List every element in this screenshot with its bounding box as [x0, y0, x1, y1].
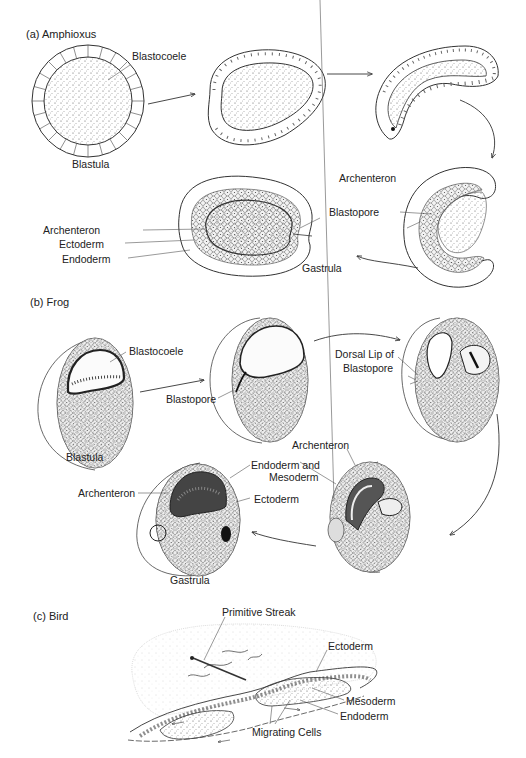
frog-stage-3: [398, 318, 499, 442]
label-dorsal-lip-line1: Dorsal Lip of: [335, 348, 394, 360]
frog-stage-2: [210, 318, 308, 443]
label-blastocoele-a: Blastocoele: [132, 50, 186, 62]
label-blastula-b: Blastula: [66, 451, 103, 463]
label-blastocoele-b: Blastocoele: [129, 345, 183, 357]
label-mesoderm-c: Mesoderm: [346, 695, 396, 707]
label-blastula-a: Blastula: [72, 158, 109, 170]
label-endoderm-mesoderm-line1: Endoderm and: [251, 459, 320, 471]
section-title-frog: (b) Frog: [30, 296, 69, 309]
frog-gastrula: [137, 463, 240, 576]
gastrulation-illustration: [0, 0, 526, 758]
label-gastrula-b: Gastrula: [170, 574, 210, 586]
label-endoderm-mesoderm-line2: Mesoderm: [269, 471, 319, 483]
label-archenteron-b-right: Archenteron: [292, 439, 349, 451]
label-endoderm-a: Endoderm: [62, 253, 110, 265]
label-ectoderm-b: Ectoderm: [254, 493, 299, 505]
label-archenteron-a-left: Archenteron: [43, 224, 100, 236]
label-archenteron-b-left: Archenteron: [78, 487, 135, 499]
label-blastopore-a: Blastopore: [329, 206, 379, 218]
label-archenteron-a-right: Archenteron: [339, 172, 396, 184]
label-migrating-cells: Migrating Cells: [252, 726, 321, 738]
label-ectoderm-a: Ectoderm: [59, 238, 104, 250]
amphioxus-stage-3: [376, 46, 498, 139]
amphioxus-stage-2: [208, 50, 325, 145]
label-gastrula-a: Gastrula: [302, 262, 342, 274]
amphioxus-blastula: [32, 45, 144, 157]
amphioxus-gastrula: [179, 176, 320, 276]
section-title-bird: (c) Bird: [33, 610, 68, 623]
label-ectoderm-c: Ectoderm: [328, 640, 373, 652]
section-title-amphioxus: (a) Amphioxus: [26, 28, 96, 41]
label-dorsal-lip-line2: Blastopore: [343, 362, 393, 374]
label-endoderm-c: Endoderm: [340, 710, 388, 722]
frog-stage-4: [328, 462, 410, 572]
label-blastopore-b: Blastopore: [166, 393, 216, 405]
amphioxus-stage-4: [404, 167, 496, 287]
label-primitive-streak: Primitive Streak: [222, 606, 296, 618]
